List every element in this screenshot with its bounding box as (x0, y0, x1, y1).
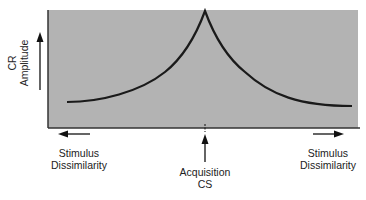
y-axis-arrow-icon (37, 32, 44, 90)
y-axis-label: CR Amplitude (6, 33, 32, 93)
acquisition-cs-label: Acquisition CS (170, 166, 240, 190)
right-label-line2: Dissimilarity (292, 159, 364, 171)
y-axis-label-line2: Amplitude (18, 33, 30, 93)
left-dissimilarity-label: Stimulus Dissimilarity (44, 147, 114, 171)
left-arrow-icon (58, 131, 90, 138)
right-dissimilarity-label: Stimulus Dissimilarity (292, 147, 364, 171)
acquisition-cs-arrow-icon (202, 124, 209, 162)
left-label-line1: Stimulus (44, 147, 114, 159)
center-label-line1: Acquisition (170, 166, 240, 178)
left-label-line2: Dissimilarity (44, 159, 114, 171)
right-label-line1: Stimulus (292, 147, 364, 159)
plot-area (48, 10, 358, 128)
y-axis-label-line1: CR (6, 33, 18, 93)
right-arrow-icon (313, 131, 344, 138)
center-label-line2: CS (170, 178, 240, 190)
